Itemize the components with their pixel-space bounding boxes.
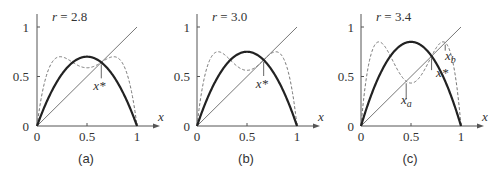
panel-label: (a) xyxy=(78,151,94,166)
x-axis-label: x xyxy=(317,109,324,124)
x-b-label: xb xyxy=(444,48,456,65)
y-tick-label-0: 0 xyxy=(348,119,355,134)
panel-c: 0 0.5 1 0 0.5 1 x r = 3.4 xa x* xb (c) xyxy=(338,9,488,166)
diagonal-line xyxy=(197,27,297,126)
x-tick-label-05: 0.5 xyxy=(79,129,95,144)
panel-title: r = 3.0 xyxy=(212,9,247,24)
y-tick-label-05: 0.5 xyxy=(174,69,190,84)
x-axis-arrow-icon xyxy=(153,124,160,129)
panel-a: 0 0.5 1 0 0.5 1 x r = 2.8 x* (a) xyxy=(13,9,164,166)
x-tick-label-1: 1 xyxy=(458,129,465,144)
x-axis-label: x xyxy=(157,109,164,124)
logistic-map-curve xyxy=(37,57,137,126)
x-a-label: xa xyxy=(400,92,412,109)
x-tick-label-0: 0 xyxy=(194,129,201,144)
x-star-label: x* xyxy=(435,65,449,80)
y-tick-label-05: 0.5 xyxy=(338,69,354,84)
panel-b: 0 0.5 1 0 0.5 1 x r = 3.0 x* (b) xyxy=(174,9,324,166)
panel-title: r = 2.8 xyxy=(52,9,87,24)
diagonal-line xyxy=(37,27,137,126)
x-axis-arrow-icon xyxy=(313,124,320,129)
y-tick-label-0: 0 xyxy=(23,119,30,134)
x-tick-label-1: 1 xyxy=(134,129,141,144)
x-tick-label-0: 0 xyxy=(34,129,41,144)
x-axis-arrow-icon xyxy=(477,124,484,129)
x-tick-label-0: 0 xyxy=(358,129,365,144)
y-tick-label-05: 0.5 xyxy=(13,69,29,84)
x-star-label: x* xyxy=(92,78,106,93)
panel-label: (c) xyxy=(402,151,417,166)
panel-label: (b) xyxy=(238,151,254,166)
x-tick-label-05: 0.5 xyxy=(239,129,255,144)
panel-title: r = 3.4 xyxy=(376,9,412,24)
x-tick-label-05: 0.5 xyxy=(403,129,419,144)
y-tick-label-0: 0 xyxy=(184,119,191,134)
x-axis-label: x xyxy=(481,109,488,124)
y-tick-label-1: 1 xyxy=(23,20,30,35)
logistic-map-curve xyxy=(197,52,297,126)
y-tick-label-1: 1 xyxy=(348,20,355,35)
x-tick-label-1: 1 xyxy=(294,129,301,144)
y-tick-label-1: 1 xyxy=(184,20,191,35)
figure: 0 0.5 1 0 0.5 1 x r = 2.8 x* (a) 0 0.5 1… xyxy=(0,0,498,175)
x-star-label: x* xyxy=(255,76,269,91)
